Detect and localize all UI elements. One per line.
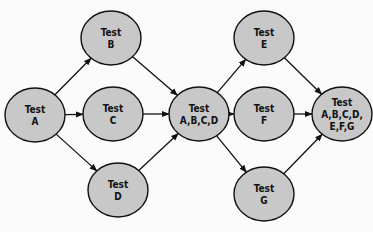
node-label-line: E,F,G (330, 121, 355, 132)
node-label-line: Test (101, 27, 122, 38)
edge-b-to-abcd (133, 57, 178, 96)
node-test-d: TestD (88, 163, 148, 217)
edge-a-to-d (56, 134, 97, 171)
node-test-abcd: TestA,B,C,D (169, 87, 229, 141)
test-dependency-diagram: TestATestBTestCTestDTestA,B,C,DTestETest… (0, 0, 373, 232)
node-label-line: F (261, 115, 267, 126)
node-label-line: Test (332, 97, 353, 108)
node-label-line: E (261, 39, 267, 50)
node-test-e: TestE (234, 11, 294, 65)
node-test-a: TestA (5, 88, 65, 142)
edge-e-to-all (284, 58, 321, 94)
edge-d-to-abcd (139, 133, 178, 170)
node-label-line: B (108, 39, 115, 50)
node-label-line: Test (254, 183, 275, 194)
node-test-all: TestA,B,C,D,E,F,G (312, 87, 372, 141)
node-label-line: D (114, 191, 121, 202)
edge-a-to-b (55, 58, 91, 95)
node-test-f: TestF (234, 87, 294, 141)
node-label-line: Test (189, 103, 210, 114)
node-test-c: TestC (83, 87, 143, 141)
node-label-line: Test (108, 179, 129, 190)
node-test-g: TestG (234, 167, 294, 221)
node-label-line: G (260, 195, 267, 206)
node-label-line: A,B,C,D, (321, 109, 363, 120)
node-label-line: A (32, 116, 39, 127)
node-label-line: A,B,C,D (180, 115, 218, 126)
node-label-line: Test (254, 103, 275, 114)
diagram-canvas: TestATestBTestCTestDTestA,B,C,DTestETest… (0, 0, 373, 232)
node-test-b: TestB (81, 11, 141, 65)
edge-abcd-to-g (217, 136, 247, 172)
node-label-line: Test (103, 103, 124, 114)
node-label-line: Test (254, 27, 275, 38)
edge-g-to-all (284, 134, 322, 173)
node-label-line: C (110, 115, 117, 126)
node-label-line: Test (25, 104, 46, 115)
edge-abcd-to-e (217, 59, 245, 92)
